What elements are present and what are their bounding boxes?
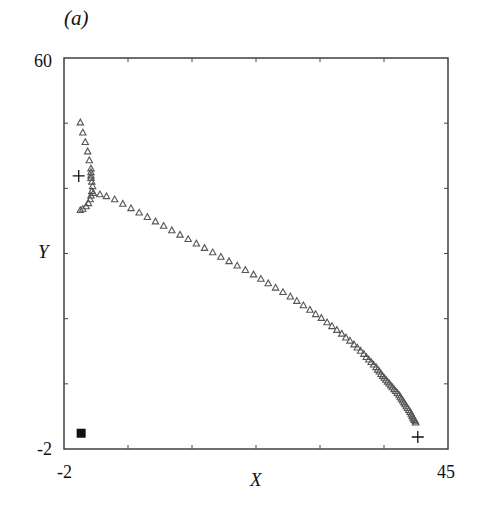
- triangle-marker: [294, 298, 300, 304]
- triangle-marker: [160, 223, 166, 229]
- triangle-marker: [218, 253, 224, 259]
- data-points: [73, 119, 424, 443]
- triangle-marker: [177, 231, 183, 237]
- triangle-marker: [86, 157, 92, 163]
- plot-frame: [64, 58, 448, 449]
- triangle-marker: [209, 249, 215, 255]
- triangle-marker: [258, 276, 264, 282]
- triangle-marker: [242, 267, 248, 273]
- x-axis-max-label: 45: [437, 463, 455, 481]
- triangle-marker: [185, 236, 191, 242]
- triangle-marker: [318, 315, 324, 321]
- triangle-marker: [343, 334, 349, 340]
- triangle-marker: [201, 245, 207, 251]
- triangle-marker: [80, 129, 86, 135]
- triangle-marker: [84, 148, 90, 154]
- triangle-marker: [152, 218, 158, 224]
- triangle-marker: [272, 284, 278, 290]
- triangle-marker: [280, 289, 286, 295]
- triangle-marker: [169, 227, 175, 233]
- triangle-marker: [144, 214, 150, 220]
- triangle-marker: [103, 193, 109, 199]
- x-axis-min-label: -2: [57, 463, 72, 481]
- triangle-marker: [307, 306, 313, 312]
- triangle-marker: [226, 258, 232, 264]
- y-axis-label: Y: [38, 242, 49, 261]
- triangle-marker: [193, 240, 199, 246]
- triangle-marker: [120, 200, 126, 206]
- triangle-marker: [234, 262, 240, 268]
- triangle-marker: [136, 209, 142, 215]
- x-axis-label: X: [250, 470, 262, 489]
- triangle-marker: [128, 205, 134, 211]
- panel-label: (a): [64, 8, 89, 29]
- plus-marker: [412, 431, 424, 443]
- triangle-marker: [82, 139, 88, 145]
- plus-marker: [73, 170, 85, 182]
- triangle-marker: [97, 191, 103, 197]
- axis-ticks: [64, 58, 448, 449]
- triangle-marker: [111, 196, 117, 202]
- triangle-marker: [77, 119, 83, 125]
- scatter-plot: [0, 0, 485, 511]
- y-axis-min-label: -2: [37, 440, 52, 458]
- triangle-marker: [250, 271, 256, 277]
- square-marker: [77, 429, 86, 438]
- y-axis-max-label: 60: [34, 52, 52, 70]
- triangle-marker: [287, 293, 293, 299]
- triangle-marker: [265, 280, 271, 286]
- triangle-marker: [300, 302, 306, 308]
